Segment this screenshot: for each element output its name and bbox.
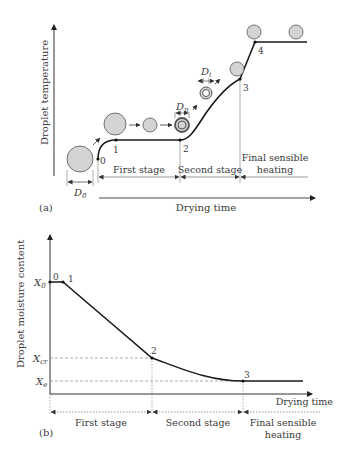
dimension-dp-label: Dp — [175, 101, 189, 114]
panel-a-point-2: 2 — [183, 144, 189, 154]
particle-icon — [247, 25, 261, 39]
panel-b-moisture-curve — [50, 282, 303, 381]
y-tick-x0: X0 — [33, 277, 46, 290]
panel-a-y-axis-label: Droplet temperature — [39, 40, 50, 145]
panel-b-point-2: 2 — [151, 346, 157, 356]
panel-a: Droplet temperature 0 1 2 3 4 — [39, 25, 315, 213]
panel-a-point-4: 4 — [258, 46, 264, 56]
droplet-icon — [143, 118, 157, 132]
particle-icon — [289, 25, 303, 39]
panel-b-stage-first: First stage — [75, 417, 127, 428]
panel-b-stage-second: Second stage — [166, 417, 231, 428]
panel-a-label: (a) — [39, 202, 53, 213]
panel-a-stage-first: First stage — [113, 164, 165, 175]
panel-b-label: (b) — [39, 427, 53, 438]
panel-b: Droplet moisture content Drying time 0 1… — [15, 235, 333, 440]
panel-a-point-0: 0 — [100, 156, 106, 166]
panel-b-x-axis-label: Drying time — [276, 396, 334, 407]
panel-b-point-3: 3 — [244, 370, 250, 380]
panel-a-point-1: 1 — [113, 145, 119, 155]
y-tick-xcr: Xcr — [32, 353, 48, 366]
particle-icon — [230, 62, 244, 76]
panel-a-stage-final-2: heating — [257, 164, 293, 175]
droplet-initial-icon — [67, 146, 93, 172]
panel-b-point-1: 1 — [68, 274, 74, 284]
panel-a-point-3: 3 — [243, 83, 249, 93]
y-tick-xe: Xe — [35, 376, 47, 389]
panel-b-y-axis-label: Droplet moisture content — [15, 240, 26, 368]
dimension-di-label: Di — [200, 66, 211, 79]
panel-a-x-axis-label: Drying time — [176, 202, 236, 213]
dimension-d0-label: D0 — [73, 187, 87, 200]
panel-a-stage-second: Second stage — [178, 164, 243, 175]
panel-b-point-0: 0 — [53, 272, 59, 282]
droplet-icon — [104, 113, 126, 135]
panel-b-stage-final-2: heating — [265, 429, 301, 440]
panel-b-stage-final-1: Final sensible — [250, 417, 317, 428]
panel-a-stage-final-1: Final sensible — [242, 152, 309, 163]
spray-drying-diagram: Droplet temperature 0 1 2 3 4 — [0, 0, 351, 456]
panel-a-temperature-curve — [98, 42, 307, 159]
